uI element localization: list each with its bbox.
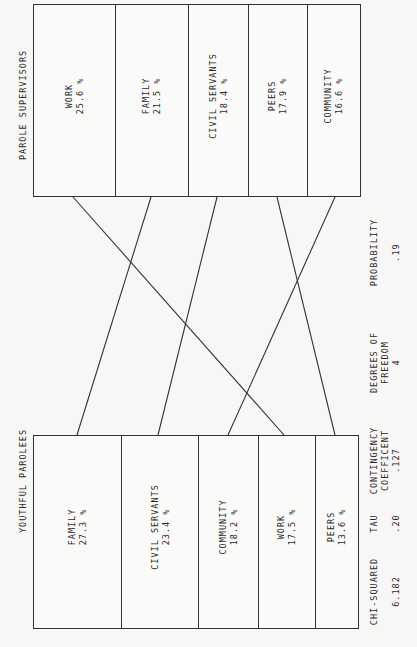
bottom-cell-work: WORK 17.5 % [259,436,316,628]
bottom-cell-community: COMMUNITY 18.2 % [199,436,259,628]
stat-value: .127 [391,406,402,516]
cell-value: 18.2 % [229,457,240,597]
cell-value: 23.4 % [161,457,172,597]
stat-label: PROBABILITY [369,198,380,308]
stat-degrees-of-freedom: DEGREES OF FREEDOM 4 [369,308,402,418]
stat-label-2: COEFFICENT [380,406,391,516]
connection-work [73,197,284,435]
connection-civil-servants [158,197,217,435]
connection-community [228,197,335,435]
connection-family [77,197,151,435]
bottom-cell-family: FAMILY 27.3 % [34,436,122,628]
cell-label: COMMUNITY [218,457,229,597]
stat-label-2: FREEDOM [380,308,391,418]
stat-contingency-coefficient: CONTINGENCY COEFFICENT .127 [369,406,402,516]
cell-value: 17.5 % [287,457,298,597]
bottom-group-title: YOUTHFUL PAROLEES [18,429,28,533]
bottom-cell-civil-servants: CIVIL SERVANTS 23.4 % [122,436,199,628]
cell-label: CIVIL SERVANTS [150,457,161,597]
youthful-parolees-box: FAMILY 27.3 % CIVIL SERVANTS 23.4 % COMM… [33,435,359,629]
stat-label: CONTINGENCY [369,406,380,516]
cell-value: 27.3 % [78,457,89,597]
stat-value: 4 [391,308,402,418]
cell-label: WORK [276,457,287,597]
cell-value: 13.6 % [337,457,348,597]
connection-peers [277,197,335,435]
cell-label: PEERS [326,457,337,597]
stat-label: DEGREES OF [369,308,380,418]
cell-label: FAMILY [67,457,78,597]
stat-value: .19 [391,198,402,308]
stat-label-2 [380,198,391,308]
stat-probability: PROBABILITY .19 [369,198,402,308]
bottom-cell-peers: PEERS 13.6 % [316,436,360,628]
